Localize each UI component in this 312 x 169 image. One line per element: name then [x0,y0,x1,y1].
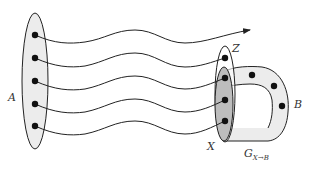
set-x-dot [222,75,228,81]
set-a-dot [32,55,38,61]
diagram-canvas: A Z X B GX→B [0,0,312,169]
set-x-dot [222,118,228,124]
label-graph-subscript: X→B [252,154,269,162]
set-a-dot [32,32,38,38]
set-x-dot [222,97,228,103]
set-a-dot [32,123,38,129]
path-5 [35,121,225,135]
set-a-dot [32,101,38,107]
label-a: A [7,91,16,104]
set-z-dot [222,55,228,61]
set-b-dot [279,103,285,109]
set-b-dot [271,83,277,89]
set-b-dot [249,72,255,78]
path-1-arrow [35,30,250,43]
label-x: X [206,140,216,153]
set-a-dot [32,78,38,84]
diagram-svg: A Z X B GX→B [0,0,312,169]
path-2 [35,53,225,67]
path-3 [35,76,225,90]
label-b: B [293,98,302,111]
label-graph: GX→B [244,147,269,162]
label-z: Z [231,42,240,55]
path-4 [35,99,225,113]
label-graph-base: G [244,147,253,160]
